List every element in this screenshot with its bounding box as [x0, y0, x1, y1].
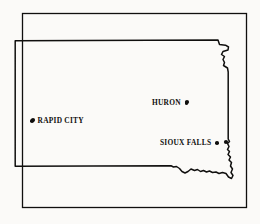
city-label-rapid-city: RAPID CITY [30, 117, 84, 124]
huron-dot-icon [185, 101, 189, 105]
rapid-city-dot-icon [30, 119, 34, 123]
huron-label-text: HURON [152, 99, 181, 106]
south-dakota-state-boundary [15, 40, 233, 179]
rapid-city-label-text: RAPID CITY [38, 117, 84, 124]
sioux-falls-marker-dot [224, 140, 228, 144]
city-label-huron: HURON [152, 99, 188, 106]
sioux-falls-label-text: SIOUX FALLS [160, 139, 211, 146]
sioux-falls-dot-icon [215, 141, 219, 145]
outer-border-rectangle [23, 14, 247, 208]
city-label-sioux-falls: SIOUX FALLS [160, 139, 219, 146]
map-figure: RAPID CITY HURON SIOUX FALLS [0, 0, 260, 224]
map-graphic [0, 0, 260, 224]
